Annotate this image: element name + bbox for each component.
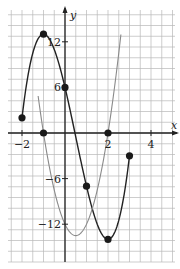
x-axis-label: x [171,119,178,132]
y-tick-label: 6 [54,81,61,94]
data-point [83,183,90,190]
grid [8,10,175,262]
y-axis-arrow-icon [63,6,68,13]
labels: −224126−6−12xy [14,9,178,231]
x-tick-label: −2 [14,138,30,151]
function-graph: −224126−6−12xy [0,0,180,269]
y-tick-label: −6 [45,173,61,186]
data-point [61,84,68,91]
y-tick-label: 12 [47,36,61,49]
y-axis-label: y [69,9,77,22]
x-tick-label: 4 [148,138,155,151]
data-point [104,129,111,136]
data-point [40,129,47,136]
data-point [18,114,25,121]
y-tick-label: −12 [38,218,61,231]
data-point [126,152,133,159]
x-tick-label: 2 [105,138,112,151]
axes [8,6,179,262]
data-point [104,236,111,243]
